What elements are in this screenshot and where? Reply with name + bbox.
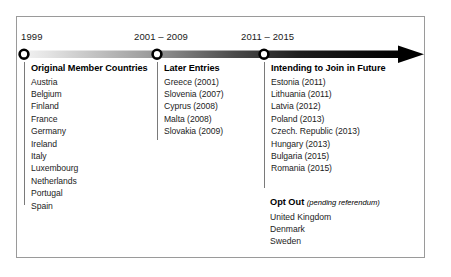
optout-block: Opt Out (pending referendum) United King… bbox=[270, 196, 416, 248]
timeline-year-label-2001-2009: 2001 – 2009 bbox=[134, 31, 188, 42]
optout-heading: Opt Out (pending referendum) bbox=[270, 196, 416, 210]
list-item: United Kingdom bbox=[270, 211, 416, 223]
list-item: Belgium bbox=[31, 88, 156, 100]
list-item: Estonia (2011) bbox=[271, 76, 416, 88]
list-item: Finland bbox=[31, 100, 156, 112]
list-item: Greece (2001) bbox=[164, 76, 263, 88]
optout-title: Opt Out bbox=[270, 197, 304, 207]
list-item: Slovenia (2007) bbox=[164, 88, 263, 100]
timeline-column-original-members: Original Member Countries Austria Belgiu… bbox=[24, 62, 156, 205]
list-item: Spain bbox=[31, 200, 156, 212]
list-item: Italy bbox=[31, 150, 156, 162]
timeline-year-label-2011-2015: 2011 – 2015 bbox=[241, 31, 294, 42]
list-item: Romania (2015) bbox=[271, 162, 416, 174]
column-heading: Original Member Countries bbox=[31, 62, 156, 75]
list-item: Cyprus (2008) bbox=[164, 100, 263, 112]
list-item: Bulgaria (2015) bbox=[271, 150, 416, 162]
list-item: Latvia (2012) bbox=[271, 100, 416, 112]
timeline-column-intending-to-join: Intending to Join in Future Estonia (201… bbox=[264, 62, 416, 188]
list-item: Germany bbox=[31, 125, 156, 137]
list-item: Malta (2008) bbox=[164, 113, 263, 125]
timeline-year-label-1999: 1999 bbox=[21, 31, 43, 42]
list-item: Portugal bbox=[31, 187, 156, 199]
list-item: Sweden bbox=[270, 235, 416, 247]
list-item: Netherlands bbox=[31, 175, 156, 187]
list-item: Poland (2013) bbox=[271, 113, 416, 125]
column-heading: Later Entries bbox=[164, 62, 263, 75]
list-item: Austria bbox=[31, 76, 156, 88]
column-heading: Intending to Join in Future bbox=[271, 62, 416, 75]
list-item: Luxembourg bbox=[31, 162, 156, 174]
timeline-column-later-entries: Later Entries Greece (2001) Slovenia (20… bbox=[157, 62, 263, 140]
list-item: Czech. Republic (2013) bbox=[271, 125, 416, 137]
list-item: Ireland bbox=[31, 138, 156, 150]
list-item: Lithuania (2011) bbox=[271, 88, 416, 100]
optout-note: (pending referendum) bbox=[307, 198, 380, 207]
list-item: France bbox=[31, 113, 156, 125]
list-item: Hungary (2013) bbox=[271, 138, 416, 150]
list-item: Denmark bbox=[270, 223, 416, 235]
list-item: Slovakia (2009) bbox=[164, 125, 263, 137]
